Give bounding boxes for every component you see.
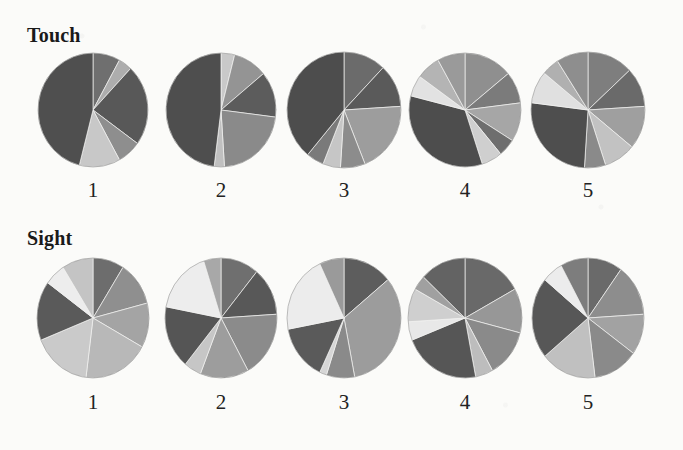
pie-chart-sight-4 [405,255,525,381]
pie-number-label: 4 [435,178,495,203]
pie-chart-sight-2 [162,255,280,381]
pie-chart-sight-1 [34,255,152,381]
pie-chart-figure: Touch12345Sight12345 [0,0,683,450]
pie-chart-touch-1 [35,50,151,170]
pie-number-label: 2 [191,390,251,415]
pie-chart-sight-5 [529,255,647,381]
pie-chart-touch-2 [163,50,279,170]
pie-chart-touch-5 [528,49,648,171]
pie-slice [221,110,276,167]
pie-chart-sight-3 [284,255,404,381]
pie-number-label: 2 [191,178,251,203]
pie-number-label: 5 [558,390,618,415]
pie-chart-touch-3 [284,49,404,171]
row-label-sight: Sight [27,227,72,250]
pie-number-label: 1 [63,178,123,203]
pie-number-label: 3 [314,178,374,203]
pie-number-label: 5 [558,178,618,203]
pie-chart-touch-4 [406,50,524,170]
pie-slice [531,103,588,168]
pie-number-label: 3 [314,390,374,415]
pie-slice [166,53,221,167]
row-label-touch: Touch [27,24,81,47]
pie-number-label: 1 [63,390,123,415]
pie-number-label: 4 [435,390,495,415]
